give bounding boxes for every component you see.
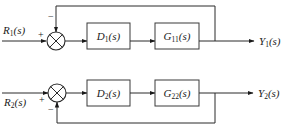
plus-sign-2: + (39, 94, 45, 105)
loop-1: R1(s) + − D1(s) G11(s) Y1(s) (2, 6, 281, 50)
plant-block-g22: G22(s) (155, 80, 199, 106)
summing-junction-1 (47, 32, 65, 50)
output-label-y1: Y1(s) (259, 35, 281, 49)
loop-2: R2(s) + − D2(s) G22(s) Y2(s) (2, 80, 280, 123)
output-label-y2: Y2(s) (258, 87, 280, 101)
controller-block-d1: D1(s) (87, 23, 130, 49)
plus-sign-1: + (38, 29, 44, 40)
controller-block-d2: D2(s) (87, 80, 130, 106)
svg-text:D2(s): D2(s) (96, 87, 121, 101)
minus-sign-1: − (48, 11, 54, 22)
summing-junction-2 (48, 84, 66, 102)
svg-text:D1(s): D1(s) (96, 30, 121, 44)
minus-sign-2: − (48, 104, 54, 115)
plant-block-g11: G11(s) (155, 23, 199, 49)
input-label-r1: R1(s) (2, 24, 25, 38)
block-diagram: R1(s) + − D1(s) G11(s) Y1(s) (0, 0, 285, 130)
input-label-r2: R2(s) (3, 96, 26, 110)
